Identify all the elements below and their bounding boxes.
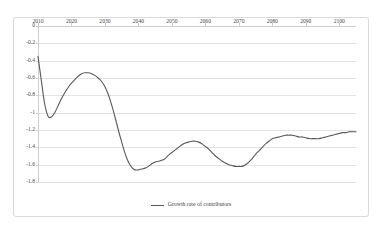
x-axis-tick-label: 2020 [66,19,77,25]
plot-area: 0-0.2-0.4-0.6-0.8-1-1.2-1.4-1.6-1.8 2010… [38,26,356,182]
y-axis-tick-label: -1.2 [26,127,35,133]
x-axis-tick-label: 2060 [200,19,211,25]
x-axis-tick-label: 2040 [133,19,144,25]
legend-item-label: Growth rate of contributors [168,202,232,208]
x-axis-tick-label: 2100 [334,19,345,25]
y-axis-tick-label: -1 [30,110,35,116]
x-axis-tick-label: 2050 [166,19,177,25]
y-axis-tick-label: -1.6 [26,162,35,168]
y-axis-tick-label: -0.6 [26,75,35,81]
y-axis-tick-label: -1.8 [26,179,35,185]
legend-line-swatch [151,205,164,206]
y-axis-tick-label: -0.8 [26,93,35,99]
x-axis-tick-label: 2090 [300,19,311,25]
chart-container: 0-0.2-0.4-0.6-0.8-1-1.2-1.4-1.6-1.8 2010… [13,17,369,217]
x-axis-tick-label: 2030 [99,19,110,25]
gridline [38,182,356,183]
y-axis-tick-label: -0.4 [26,58,35,64]
x-axis-tick-label: 2070 [233,19,244,25]
y-axis-tick-label: -0.2 [26,41,35,47]
x-axis-tick-label: 2010 [32,19,43,25]
chart-legend: Growth rate of contributors [14,202,368,208]
y-axis-tick-mark [36,182,38,183]
y-axis-tick-label: -1.4 [26,145,35,151]
series-growth-rate-of-contributors [38,26,356,182]
x-axis-tick-label: 2080 [267,19,278,25]
